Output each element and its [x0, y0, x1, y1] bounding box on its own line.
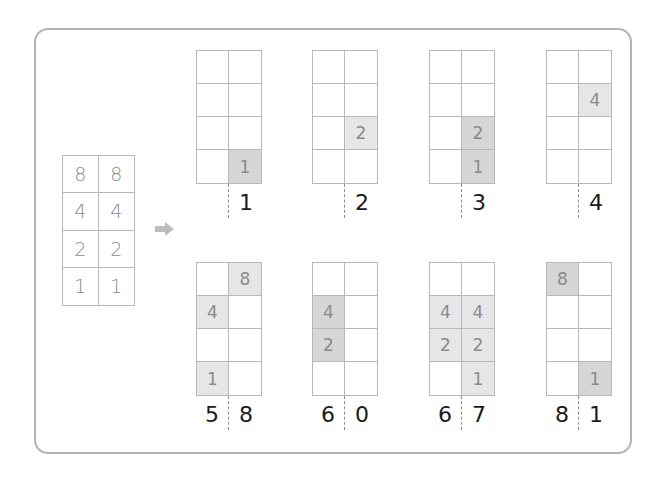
- empty-cell: [313, 150, 345, 183]
- empty-cell: [313, 362, 345, 395]
- ref-cell: 4: [63, 193, 99, 230]
- value-label: 3: [429, 184, 495, 220]
- empty-cell: [579, 150, 611, 183]
- empty-cell: [547, 150, 579, 183]
- empty-cell: [547, 329, 579, 362]
- empty-cell: [229, 51, 261, 84]
- empty-cell: [430, 51, 462, 84]
- ones-digit: 2: [348, 190, 376, 215]
- chip-cell: 4: [197, 296, 229, 329]
- chip-grid: 2: [312, 50, 378, 184]
- tens-digit: 6: [314, 402, 342, 427]
- empty-cell: [547, 296, 579, 329]
- empty-cell: [430, 84, 462, 117]
- empty-cell: [313, 263, 345, 296]
- ones-digit: 1: [582, 402, 610, 427]
- place-divider: [578, 396, 579, 430]
- value-label: 58: [196, 396, 262, 432]
- place-divider: [344, 184, 345, 218]
- chip-cell: 1: [462, 150, 494, 183]
- ones-digit: 1: [232, 190, 260, 215]
- ref-cell: 1: [63, 268, 99, 305]
- empty-cell: [229, 117, 261, 150]
- chip-grid: 1: [196, 50, 262, 184]
- place-value-panel: 4260: [312, 262, 378, 432]
- chip-grid: 841: [196, 262, 262, 396]
- tens-digit: 5: [198, 402, 226, 427]
- empty-cell: [547, 117, 579, 150]
- right-arrow-icon: [155, 222, 174, 236]
- chip-grid: 44221: [429, 262, 495, 396]
- empty-cell: [229, 362, 261, 395]
- empty-cell: [430, 263, 462, 296]
- empty-cell: [345, 51, 377, 84]
- ref-cell: 4: [99, 193, 135, 230]
- place-divider: [578, 184, 579, 218]
- chip-cell: 2: [430, 329, 462, 362]
- ones-digit: 4: [582, 190, 610, 215]
- empty-cell: [579, 117, 611, 150]
- value-label: 4: [546, 184, 612, 220]
- chip-cell: 1: [579, 362, 611, 395]
- empty-cell: [547, 362, 579, 395]
- chip-cell: 8: [229, 263, 261, 296]
- empty-cell: [462, 263, 494, 296]
- place-value-panel: 8181: [546, 262, 612, 432]
- empty-cell: [313, 117, 345, 150]
- empty-cell: [579, 51, 611, 84]
- empty-cell: [430, 150, 462, 183]
- chip-cell: 1: [229, 150, 261, 183]
- place-value-panel: 84158: [196, 262, 262, 432]
- place-divider: [228, 184, 229, 218]
- chip-grid: 81: [546, 262, 612, 396]
- chip-cell: 4: [430, 296, 462, 329]
- empty-cell: [345, 362, 377, 395]
- empty-cell: [229, 296, 261, 329]
- empty-cell: [547, 84, 579, 117]
- ref-cell: 1: [99, 268, 135, 305]
- empty-cell: [197, 263, 229, 296]
- value-label: 1: [196, 184, 262, 220]
- empty-cell: [579, 263, 611, 296]
- empty-cell: [229, 84, 261, 117]
- empty-cell: [345, 329, 377, 362]
- empty-cell: [462, 84, 494, 117]
- chip-cell: 2: [345, 117, 377, 150]
- place-divider: [461, 396, 462, 430]
- ref-cell: 2: [63, 231, 99, 268]
- tens-digit: 6: [431, 402, 459, 427]
- ref-cell: 8: [99, 156, 135, 193]
- chip-cell: 4: [462, 296, 494, 329]
- chip-cell: 2: [313, 329, 345, 362]
- ones-digit: 0: [348, 402, 376, 427]
- empty-cell: [229, 329, 261, 362]
- empty-cell: [197, 84, 229, 117]
- empty-cell: [197, 51, 229, 84]
- place-divider: [461, 184, 462, 218]
- chip-cell: 4: [579, 84, 611, 117]
- empty-cell: [462, 51, 494, 84]
- chip-cell: 1: [197, 362, 229, 395]
- chip-cell: 1: [462, 362, 494, 395]
- place-value-panel: 11: [196, 50, 262, 220]
- empty-cell: [579, 329, 611, 362]
- value-label: 81: [546, 396, 612, 432]
- chip-cell: 8: [547, 263, 579, 296]
- empty-cell: [345, 84, 377, 117]
- empty-cell: [430, 117, 462, 150]
- reference-grid: 8 8 4 4 2 2 1 1: [62, 155, 135, 306]
- value-label: 67: [429, 396, 495, 432]
- chip-cell: 2: [462, 329, 494, 362]
- place-divider: [228, 396, 229, 430]
- chip-cell: 2: [462, 117, 494, 150]
- chip-grid: 21: [429, 50, 495, 184]
- empty-cell: [197, 329, 229, 362]
- ones-digit: 8: [232, 402, 260, 427]
- chip-grid: 4: [546, 50, 612, 184]
- empty-cell: [313, 51, 345, 84]
- place-value-panel: 213: [429, 50, 495, 220]
- empty-cell: [345, 263, 377, 296]
- ref-cell: 8: [63, 156, 99, 193]
- ones-digit: 7: [465, 402, 493, 427]
- ones-digit: 3: [465, 190, 493, 215]
